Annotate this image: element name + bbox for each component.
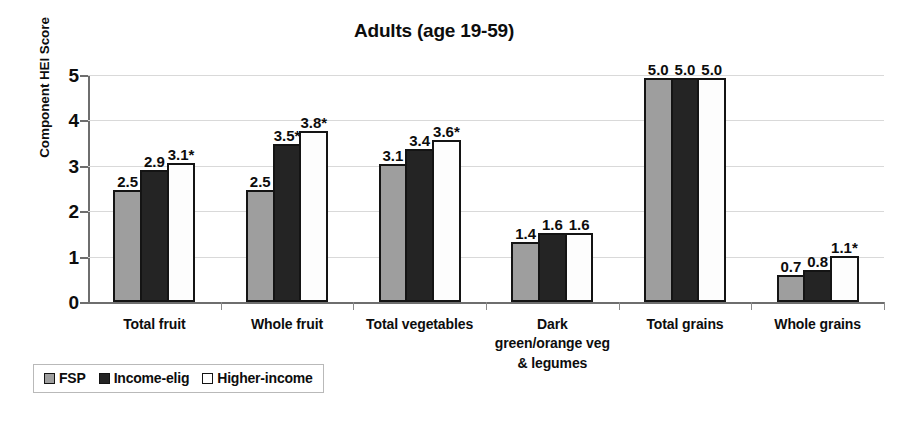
category-label-line: Dark	[486, 315, 619, 334]
bar[interactable]: 3.5*	[273, 144, 302, 302]
y-tick-mark	[80, 211, 88, 213]
legend-item-label: Higher-income	[217, 370, 312, 386]
gridline	[88, 75, 884, 76]
y-tick-label: 0	[68, 293, 79, 312]
bar-value-label: 3.8*	[300, 115, 327, 130]
chart-title: Adults (age 19-59)	[0, 20, 886, 42]
bar-value-label: 0.7	[780, 259, 801, 274]
bar-value-label: 2.9	[144, 154, 165, 169]
y-tick-label: 3	[68, 156, 79, 175]
bar-group: 3.13.43.6*	[379, 75, 461, 302]
category-label-line: Total fruit	[88, 315, 221, 334]
gridline	[88, 211, 884, 212]
legend-item-label: Income-elig	[114, 370, 190, 386]
category-label-line: Total grains	[619, 315, 752, 334]
x-axis-separator	[353, 302, 354, 310]
bar[interactable]: 3.8*	[299, 131, 328, 302]
bar[interactable]: 3.1	[379, 164, 408, 302]
bar-value-label: 1.6	[569, 217, 590, 232]
bar-value-label: 1.6	[542, 217, 563, 232]
y-tick-label: 5	[68, 66, 79, 85]
bar[interactable]: 5.0	[644, 78, 673, 302]
bar[interactable]: 0.8	[803, 270, 832, 302]
bar[interactable]: 3.1*	[167, 163, 196, 302]
bar[interactable]: 1.1*	[830, 256, 859, 302]
bar-value-label: 5.0	[701, 62, 722, 77]
bar[interactable]: 2.5	[113, 190, 142, 302]
bar-value-label: 5.0	[648, 62, 669, 77]
legend-item-higher-income[interactable]: Higher-income	[202, 370, 312, 386]
y-tick-mark	[80, 302, 88, 304]
bar-group-bars: 3.13.43.6*	[379, 75, 461, 302]
gridline	[88, 166, 884, 167]
y-tick-label: 4	[68, 111, 79, 130]
bar-value-label: 3.4	[409, 133, 430, 148]
bar-group: 5.05.05.0	[644, 75, 726, 302]
bar[interactable]: 3.6*	[432, 140, 461, 302]
bar[interactable]: 5.0	[671, 78, 700, 302]
bar-group: 2.52.93.1*	[113, 75, 195, 302]
legend-swatch-icon	[202, 373, 213, 384]
bar-value-label: 2.5	[117, 174, 138, 189]
bar-group: 2.53.5*3.8*	[246, 75, 328, 302]
y-tick-mark	[80, 166, 88, 168]
bar-group: 0.70.81.1*	[777, 75, 859, 302]
legend-item-label: FSP	[59, 370, 86, 386]
x-axis-category-label: Total grains	[619, 315, 752, 334]
y-tick-label: 2	[68, 202, 79, 221]
x-axis-category-label: Total vegetables	[353, 315, 486, 334]
bar-value-label: 3.5*	[274, 128, 301, 143]
bar[interactable]: 5.0	[697, 78, 726, 302]
bar[interactable]: 1.4	[511, 242, 540, 302]
bar-group-bars: 2.53.5*3.8*	[246, 75, 328, 302]
legend-swatch-icon	[44, 373, 55, 384]
bar-group-bars: 1.41.61.6	[511, 75, 593, 302]
bar[interactable]: 2.9	[140, 170, 169, 302]
y-tick-label: 1	[68, 247, 79, 266]
gridline	[88, 120, 884, 121]
bar-group-bars: 2.52.93.1*	[113, 75, 195, 302]
chart-legend: FSPIncome-eligHigher-income	[33, 364, 324, 393]
bar[interactable]: 1.6	[538, 233, 567, 302]
y-tick-mark	[80, 75, 88, 77]
bar-value-label: 0.8	[807, 254, 828, 269]
x-axis-separator	[486, 302, 487, 310]
x-axis-category-label: Whole grains	[751, 315, 884, 334]
legend-item-income-elig[interactable]: Income-elig	[99, 370, 190, 386]
y-tick-mark	[80, 120, 88, 122]
x-axis-category-label: Total fruit	[88, 315, 221, 334]
x-axis-category-label: Darkgreen/orange veg& legumes	[486, 315, 619, 373]
bar-value-label: 3.1*	[168, 147, 195, 162]
x-axis-separator	[751, 302, 752, 310]
bar-group: 1.41.61.6	[511, 75, 593, 302]
bar[interactable]: 0.7	[777, 275, 806, 302]
y-tick-mark	[80, 257, 88, 259]
bar-value-label: 1.4	[515, 226, 536, 241]
bar[interactable]: 3.4	[405, 149, 434, 302]
bar-value-label: 3.1	[382, 148, 403, 163]
gridline	[88, 257, 884, 258]
bar[interactable]: 2.5	[246, 190, 275, 302]
bar-value-label: 2.5	[250, 174, 271, 189]
chart-container: Adults (age 19-59) Component HEI Score 2…	[0, 0, 904, 426]
bar-group-bars: 5.05.05.0	[644, 75, 726, 302]
x-axis-category-label: Whole fruit	[221, 315, 354, 334]
legend-swatch-icon	[99, 373, 110, 384]
category-label-line: Whole fruit	[221, 315, 354, 334]
category-label-line: Whole grains	[751, 315, 884, 334]
x-axis-separator	[221, 302, 222, 310]
x-axis-separator	[884, 302, 885, 310]
x-axis-separator	[619, 302, 620, 310]
category-label-line: & legumes	[486, 354, 619, 373]
category-label-line: Total vegetables	[353, 315, 486, 334]
bar-value-label: 3.6*	[433, 124, 460, 139]
category-label-line: green/orange veg	[486, 334, 619, 353]
plot-area: 2.52.93.1*2.53.5*3.8*3.13.43.6*1.41.61.6…	[88, 75, 884, 302]
y-axis-title: Component HEI Score	[37, 0, 52, 198]
bar[interactable]: 1.6	[565, 233, 594, 302]
bar-value-label: 5.0	[675, 62, 696, 77]
bar-group-bars: 0.70.81.1*	[777, 75, 859, 302]
legend-item-fsp[interactable]: FSP	[44, 370, 86, 386]
bar-value-label: 1.1*	[831, 240, 858, 255]
